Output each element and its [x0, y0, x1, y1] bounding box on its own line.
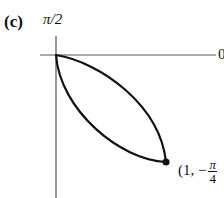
- fraction-denominator: 4: [208, 172, 217, 185]
- point-coordinate-label: (1, −π4: [178, 158, 217, 185]
- fraction-numerator: π: [208, 158, 217, 172]
- axis-label-pi-over-2: π/2: [43, 12, 62, 27]
- axis-label-zero: 0: [218, 47, 224, 62]
- marked-point: [163, 159, 170, 166]
- point-label-prefix: (1, −: [178, 162, 206, 178]
- petal-curve: [56, 55, 166, 162]
- figure-part-label: (c): [4, 13, 23, 30]
- fraction: π4: [208, 158, 217, 185]
